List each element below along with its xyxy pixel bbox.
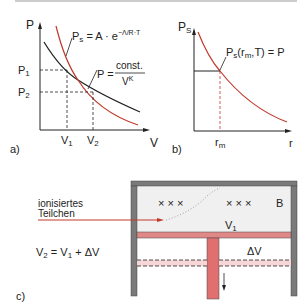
volume-equation: V2 = V1 + ΔV xyxy=(36,246,100,260)
y-axis-label: P xyxy=(26,18,34,32)
displaced-piston-right xyxy=(219,260,291,266)
magnetic-field-crosses-left: × × × xyxy=(158,197,183,209)
chamber-left-wall xyxy=(131,186,137,296)
y-axis-arrow-icon xyxy=(192,28,196,35)
p1-label: P1 xyxy=(18,64,30,78)
x-axis-arrow-icon xyxy=(143,128,150,132)
v2-label: V2 xyxy=(87,134,99,148)
p-equation-denominator: VK xyxy=(122,75,134,87)
p-leader xyxy=(88,70,97,89)
particle-label-line2: Teilchen xyxy=(38,208,75,219)
magnetic-field-crosses-right: × × × xyxy=(226,197,251,209)
panel-b-label: b) xyxy=(172,143,182,155)
equilibrium-equation: Ps(rm,T) = P xyxy=(226,46,285,60)
panel-c-label: c) xyxy=(16,290,25,302)
p-equation-numerator: const. xyxy=(116,60,143,71)
displaced-piston-left xyxy=(137,260,207,266)
field-label: B xyxy=(276,197,283,209)
y-axis-label: PS xyxy=(178,20,191,35)
piston-plate xyxy=(137,232,291,238)
x-axis-arrow-icon xyxy=(285,129,292,133)
x-axis-label: r xyxy=(289,137,293,149)
eq-leader xyxy=(220,57,226,70)
y-axis-arrow-icon xyxy=(38,22,42,29)
delta-v-label: ΔV xyxy=(247,245,262,257)
v1-label: V1 xyxy=(61,134,73,148)
piston-rod xyxy=(207,238,219,299)
panel-c: ionisiertes Teilchen × × × × × × B V1 ΔV… xyxy=(16,181,297,302)
ps-equation: Ps = A · e−Λ/R·T xyxy=(72,29,141,44)
gas-volume xyxy=(137,186,291,232)
panel-b: PS r rm Ps(rm,T) = P b) xyxy=(172,20,293,155)
rm-label: rm xyxy=(215,136,226,150)
chamber-top xyxy=(131,181,297,186)
panel-a-label: a) xyxy=(10,143,20,155)
panel-a: P V P1 P2 V1 V2 Ps = A · e−Λ/R·T P = con… xyxy=(10,18,158,155)
x-axis-label: V xyxy=(150,136,158,150)
figure: P V P1 P2 V1 V2 Ps = A · e−Λ/R·T P = con… xyxy=(0,0,305,308)
p2-label: P2 xyxy=(18,86,30,100)
p-equation-lhs: P = xyxy=(97,68,114,80)
chamber-right-wall xyxy=(291,186,297,296)
down-arrow-icon xyxy=(222,285,226,291)
